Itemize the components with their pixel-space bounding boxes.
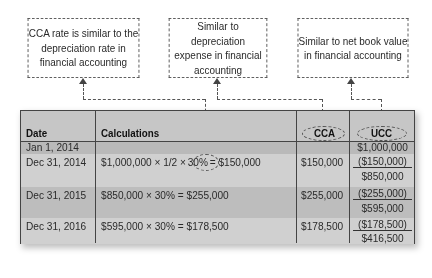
callout-cca-rate: CCA rate is similar to the depreciation … (28, 18, 140, 78)
callout-line: Similar to net book value (299, 34, 408, 49)
header-calculations: Calculations (101, 127, 159, 139)
connector-line (217, 84, 218, 99)
connector-line (83, 84, 84, 99)
cca-value: $150,000 (301, 156, 343, 168)
header-date: Date (26, 127, 47, 139)
callout-line: depreciation rate in (29, 41, 138, 56)
callout-line: accounting (170, 63, 267, 78)
callout-line: expense in financial (170, 48, 267, 63)
callout-line: financial accounting (29, 55, 138, 70)
row-calculation: $595,000 × 30% = $178,500 (101, 220, 229, 232)
rate-highlight-oval (193, 154, 219, 171)
ucc-deduction: ($255,000) (353, 187, 412, 200)
callout-cca-expense: Similar to depreciation expense in finan… (169, 18, 268, 78)
header-band (21, 111, 414, 141)
row-calculation: $850,000 × 30% = $255,000 (101, 189, 229, 201)
cca-schedule-table: Date Calculations CCA UCC Jan 1, 2014 $1… (20, 110, 415, 244)
header-cca: CCA (314, 127, 335, 139)
ucc-balance: $416,500 (353, 232, 412, 244)
cca-value: $255,000 (301, 189, 343, 201)
ucc-balance: $850,000 (353, 170, 412, 182)
connector-line (217, 99, 322, 100)
callout-line: CCA rate is similar to the (29, 26, 138, 41)
column-divider (349, 111, 350, 243)
ucc-balance: $595,000 (353, 202, 412, 214)
connector-line (83, 99, 205, 100)
callout-ucc: Similar to net book value in financial a… (298, 18, 409, 78)
cca-value: $178,500 (301, 220, 343, 232)
row-calculation: $1,000,000 × 1/2 ×30%= $150,000 (101, 156, 261, 168)
column-divider (296, 111, 297, 243)
connector-line (351, 99, 381, 100)
header-ucc: UCC (371, 127, 392, 139)
row-date: Jan 1, 2014 (26, 141, 79, 153)
ucc-value: $1,000,000 (353, 141, 412, 153)
column-divider (95, 111, 96, 243)
ucc-deduction: ($150,000) (353, 155, 412, 168)
ucc-deduction: ($178,500) (353, 218, 412, 231)
callout-line: in financial accounting (299, 48, 408, 63)
row-date: Dec 31, 2015 (26, 189, 86, 201)
row-date: Dec 31, 2016 (26, 220, 86, 232)
connector-line (351, 84, 352, 99)
row-date: Dec 31, 2014 (26, 156, 86, 168)
calc-pre: $1,000,000 × 1/2 × (101, 156, 186, 168)
callout-line: Similar to depreciation (170, 19, 267, 48)
